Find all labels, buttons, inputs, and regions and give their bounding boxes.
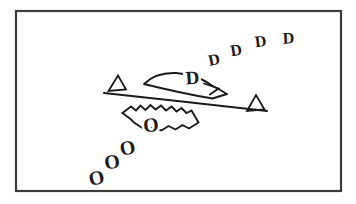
figure-page: D D D D D O O O O <box>0 0 356 204</box>
letter-d-trail-0: D <box>207 50 222 69</box>
smooth-band-fold <box>204 84 219 95</box>
letter-o-trail-1: O <box>103 150 121 174</box>
letter-d-trail-1: D <box>229 41 243 60</box>
letter-o-label: O <box>142 113 159 136</box>
letter-d-label: D <box>185 67 200 89</box>
letter-d-trail-3: D <box>282 29 294 47</box>
letter-o-trail-0: O <box>118 135 137 159</box>
left-triangle <box>109 76 127 92</box>
letter-d-trail-2: D <box>254 32 268 50</box>
jagged-band-outline <box>123 105 199 131</box>
figure-canvas: D D D D D O O O O <box>0 0 356 204</box>
letter-o-trail-2: O <box>87 165 107 190</box>
